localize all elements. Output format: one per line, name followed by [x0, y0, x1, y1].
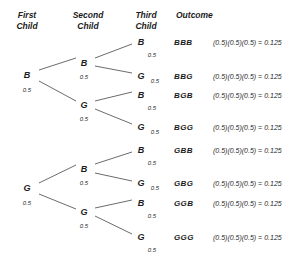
outcome-gbb: GBB — [174, 146, 193, 155]
prob-third-child-bgg: 0.5 — [151, 129, 159, 135]
prob-second-child-b-from-b: 0.5 — [80, 74, 88, 80]
third-child-bbg: G — [137, 71, 144, 81]
outcome-ggb-formula: (0.5)(0.5)(0.5) = 0.125 — [213, 200, 282, 207]
edge-root-to-g — [39, 81, 76, 101]
third-child-bgb: B — [138, 90, 145, 100]
column-header-4: Outcome — [176, 10, 213, 21]
prob-second-child-b-from-g: 0.5 — [80, 180, 88, 186]
prob-third-child-gbg: 0.5 — [151, 185, 159, 191]
prob-second-child-g-from-b: 0.5 — [80, 116, 88, 122]
outcome-gbb-formula: (0.5)(0.5)(0.5) = 0.125 — [213, 147, 282, 154]
prob-first-child-b: 0.5 — [23, 87, 31, 93]
prob-third-child-ggg: 0.5 — [148, 247, 156, 253]
edge-g-to-gg — [95, 109, 132, 124]
prob-third-child-gbb: 0.5 — [148, 160, 156, 166]
outcome-bgb-formula: (0.5)(0.5)(0.5) = 0.125 — [213, 92, 282, 99]
outcome-ggb: GGB — [174, 199, 193, 208]
prob-third-child-bbb: 0.5 — [148, 52, 156, 58]
edge-g-to-gb — [95, 92, 132, 101]
prob-first-child-g: 0.5 — [23, 200, 31, 206]
prob-second-child-g-from-g: 0.5 — [80, 223, 88, 229]
prob-third-child-ggb: 0.5 — [148, 213, 156, 219]
third-child-gbb: B — [138, 145, 145, 155]
third-child-gbg: G — [137, 178, 144, 188]
prob-third-child-bgb: 0.5 — [148, 105, 156, 111]
first-child-b: B — [24, 70, 31, 80]
second-child-g-from-g: G — [80, 207, 87, 217]
second-child-g-from-b: G — [80, 100, 87, 110]
third-child-ggg: G — [137, 232, 144, 242]
column-header-2: Second Child — [73, 10, 104, 32]
third-child-bbb: B — [138, 37, 145, 47]
prob-third-child-bbg: 0.5 — [151, 78, 159, 84]
outcome-bbb: BBB — [174, 38, 193, 47]
edge-b2-to-bb2 — [95, 152, 132, 164]
outcome-bgb: BGB — [174, 91, 193, 100]
outcome-bgg: BGG — [174, 123, 193, 132]
edge-root-to-b2 — [39, 165, 76, 183]
column-header-1: First Child — [16, 10, 37, 32]
third-child-ggb: B — [138, 198, 145, 208]
edge-b-to-bg — [95, 66, 132, 73]
edge-root-to-g2 — [39, 194, 76, 209]
second-child-b-from-b: B — [81, 58, 88, 68]
outcome-gbg: GBG — [174, 179, 193, 188]
edge-g2-to-gb2 — [95, 200, 132, 208]
probability-tree-diagram: First ChildSecond ChildThird ChildOutcom… — [0, 0, 304, 269]
edge-g2-to-gg2 — [95, 216, 132, 234]
outcome-bbg-formula: (0.5)(0.5)(0.5) = 0.125 — [213, 73, 282, 80]
edge-b2-to-bg2 — [95, 173, 132, 181]
edge-b-to-bb — [95, 44, 132, 58]
third-child-bgg: G — [137, 122, 144, 132]
outcome-ggg-formula: (0.5)(0.5)(0.5) = 0.125 — [213, 234, 282, 241]
outcome-bbb-formula: (0.5)(0.5)(0.5) = 0.125 — [213, 39, 282, 46]
column-header-3: Third Child — [135, 10, 156, 32]
second-child-b-from-g: B — [81, 164, 88, 174]
first-child-g: G — [23, 183, 30, 193]
outcome-gbg-formula: (0.5)(0.5)(0.5) = 0.125 — [213, 180, 282, 187]
edge-root-to-b — [39, 58, 76, 70]
outcome-ggg: GGG — [174, 233, 194, 242]
outcome-bgg-formula: (0.5)(0.5)(0.5) = 0.125 — [213, 124, 282, 131]
outcome-bbg: BBG — [174, 72, 193, 81]
